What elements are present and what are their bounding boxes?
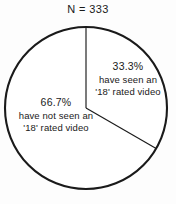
slice-percent-seen: 33.3% xyxy=(88,60,168,73)
slice-desc-not-seen-line1: have not seen an xyxy=(8,110,104,123)
slice-desc-not-seen-line2: '18' rated video xyxy=(8,122,104,135)
slice-desc-seen-line1: have seen an xyxy=(88,74,168,87)
slice-label-not-seen: 66.7% have not seen an '18' rated video xyxy=(8,96,104,135)
pie-chart-figure: N = 333 33.3% have seen an '18' rated vi… xyxy=(0,0,176,204)
slice-percent-not-seen: 66.7% xyxy=(8,96,104,109)
slice-label-seen: 33.3% have seen an '18' rated video xyxy=(88,60,168,99)
